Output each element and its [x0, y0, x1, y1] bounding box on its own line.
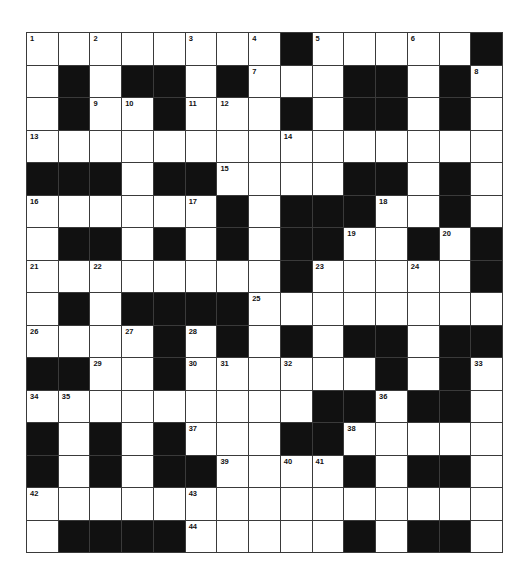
- answer-cell[interactable]: [249, 391, 280, 423]
- answer-cell[interactable]: [313, 98, 344, 130]
- answer-cell[interactable]: [344, 131, 375, 163]
- answer-cell[interactable]: [471, 131, 502, 163]
- answer-cell[interactable]: 25: [249, 293, 280, 325]
- answer-cell[interactable]: [408, 423, 439, 455]
- answer-cell[interactable]: [217, 391, 248, 423]
- answer-cell[interactable]: [408, 358, 439, 390]
- answer-cell[interactable]: 6: [408, 33, 439, 65]
- answer-cell[interactable]: [281, 66, 312, 98]
- answer-cell[interactable]: [408, 66, 439, 98]
- answer-cell[interactable]: 41: [313, 456, 344, 488]
- answer-cell[interactable]: [408, 98, 439, 130]
- answer-cell[interactable]: [27, 521, 58, 553]
- answer-cell[interactable]: 7: [249, 66, 280, 98]
- answer-cell[interactable]: [186, 261, 217, 293]
- answer-cell[interactable]: 13: [27, 131, 58, 163]
- answer-cell[interactable]: 17: [186, 196, 217, 228]
- answer-cell[interactable]: [408, 131, 439, 163]
- answer-cell[interactable]: [249, 163, 280, 195]
- answer-cell[interactable]: 21: [27, 261, 58, 293]
- answer-cell[interactable]: [154, 131, 185, 163]
- answer-cell[interactable]: [440, 261, 471, 293]
- answer-cell[interactable]: [313, 163, 344, 195]
- answer-cell[interactable]: 33: [471, 358, 502, 390]
- answer-cell[interactable]: [440, 293, 471, 325]
- answer-cell[interactable]: [122, 391, 153, 423]
- answer-cell[interactable]: [217, 131, 248, 163]
- answer-cell[interactable]: [217, 33, 248, 65]
- answer-cell[interactable]: [313, 131, 344, 163]
- answer-cell[interactable]: [376, 423, 407, 455]
- answer-cell[interactable]: [154, 488, 185, 520]
- answer-cell[interactable]: [217, 521, 248, 553]
- answer-cell[interactable]: [313, 293, 344, 325]
- answer-cell[interactable]: [249, 228, 280, 260]
- answer-cell[interactable]: [313, 358, 344, 390]
- answer-cell[interactable]: 12: [217, 98, 248, 130]
- answer-cell[interactable]: 3: [186, 33, 217, 65]
- answer-cell[interactable]: [27, 98, 58, 130]
- answer-cell[interactable]: [59, 423, 90, 455]
- answer-cell[interactable]: [122, 228, 153, 260]
- answer-cell[interactable]: [249, 196, 280, 228]
- answer-cell[interactable]: [122, 131, 153, 163]
- answer-cell[interactable]: [281, 391, 312, 423]
- answer-cell[interactable]: [408, 326, 439, 358]
- answer-cell[interactable]: [471, 488, 502, 520]
- answer-cell[interactable]: [313, 521, 344, 553]
- answer-cell[interactable]: 10: [122, 98, 153, 130]
- answer-cell[interactable]: [281, 521, 312, 553]
- answer-cell[interactable]: [408, 196, 439, 228]
- answer-cell[interactable]: [281, 163, 312, 195]
- answer-cell[interactable]: [122, 423, 153, 455]
- answer-cell[interactable]: [122, 33, 153, 65]
- answer-cell[interactable]: [440, 423, 471, 455]
- answer-cell[interactable]: 38: [344, 423, 375, 455]
- answer-cell[interactable]: [249, 358, 280, 390]
- answer-cell[interactable]: [440, 131, 471, 163]
- answer-cell[interactable]: [249, 521, 280, 553]
- answer-cell[interactable]: [122, 358, 153, 390]
- answer-cell[interactable]: [27, 293, 58, 325]
- answer-cell[interactable]: [376, 293, 407, 325]
- answer-cell[interactable]: [440, 488, 471, 520]
- answer-cell[interactable]: [59, 326, 90, 358]
- answer-cell[interactable]: 31: [217, 358, 248, 390]
- answer-cell[interactable]: [59, 33, 90, 65]
- answer-cell[interactable]: 39: [217, 456, 248, 488]
- answer-cell[interactable]: [249, 98, 280, 130]
- answer-cell[interactable]: [281, 488, 312, 520]
- answer-cell[interactable]: 32: [281, 358, 312, 390]
- answer-cell[interactable]: [376, 456, 407, 488]
- answer-cell[interactable]: [90, 131, 121, 163]
- answer-cell[interactable]: 18: [376, 196, 407, 228]
- answer-cell[interactable]: [376, 488, 407, 520]
- answer-cell[interactable]: [122, 456, 153, 488]
- answer-cell[interactable]: [408, 293, 439, 325]
- answer-cell[interactable]: [90, 196, 121, 228]
- answer-cell[interactable]: [90, 66, 121, 98]
- answer-cell[interactable]: 16: [27, 196, 58, 228]
- answer-cell[interactable]: 37: [186, 423, 217, 455]
- answer-cell[interactable]: [344, 33, 375, 65]
- answer-cell[interactable]: [59, 456, 90, 488]
- answer-cell[interactable]: 8: [471, 66, 502, 98]
- answer-cell[interactable]: [122, 196, 153, 228]
- answer-cell[interactable]: 29: [90, 358, 121, 390]
- answer-cell[interactable]: [313, 326, 344, 358]
- answer-cell[interactable]: [122, 163, 153, 195]
- answer-cell[interactable]: 15: [217, 163, 248, 195]
- answer-cell[interactable]: 24: [408, 261, 439, 293]
- answer-cell[interactable]: [217, 488, 248, 520]
- answer-cell[interactable]: 5: [313, 33, 344, 65]
- answer-cell[interactable]: [344, 261, 375, 293]
- answer-cell[interactable]: [471, 196, 502, 228]
- answer-cell[interactable]: [344, 488, 375, 520]
- answer-cell[interactable]: [471, 391, 502, 423]
- answer-cell[interactable]: [90, 293, 121, 325]
- answer-cell[interactable]: [249, 261, 280, 293]
- answer-cell[interactable]: [376, 33, 407, 65]
- answer-cell[interactable]: [471, 456, 502, 488]
- answer-cell[interactable]: [217, 261, 248, 293]
- answer-cell[interactable]: 11: [186, 98, 217, 130]
